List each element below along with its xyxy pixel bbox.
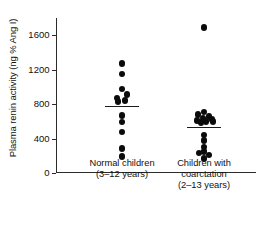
data-point [210, 118, 217, 125]
category-label-line: (2–13 years) [177, 180, 231, 191]
data-point [119, 112, 126, 119]
category-label-line: coarctation [177, 169, 231, 180]
mean-line [105, 106, 139, 107]
x-axis-category-label: Normal children(3–12 years) [89, 158, 154, 180]
y-axis-tick-label: 1200 [28, 65, 49, 75]
y-axis-tick-label: 800 [34, 99, 50, 109]
y-axis-tick-label: 0 [44, 168, 49, 178]
data-point [201, 24, 208, 31]
y-axis-tick-label: 1600 [28, 30, 49, 40]
data-point [115, 98, 122, 105]
y-axis-tick-mark [52, 173, 57, 174]
data-point [119, 119, 126, 126]
y-axis-tick-label: 400 [34, 134, 50, 144]
y-axis-tick-mark [52, 104, 57, 105]
y-axis-title: Plasma renin activity (ng % Ang I) [4, 0, 22, 178]
data-point [119, 129, 126, 136]
plot-area: 040080012001600 [56, 18, 256, 173]
data-point [119, 60, 126, 67]
data-point [198, 119, 205, 126]
y-axis-line [56, 18, 57, 173]
category-label-line: Normal children [89, 158, 154, 169]
data-point [119, 71, 126, 78]
data-point [122, 97, 129, 104]
mean-line [187, 127, 221, 128]
y-axis-tick-mark [52, 70, 57, 71]
category-label-line: (3–12 years) [89, 169, 154, 180]
chart-figure: Plasma renin activity (ng % Ang I) 04008… [0, 0, 263, 225]
y-axis-tick-mark [52, 35, 57, 36]
category-label-line: Children with [177, 158, 231, 169]
x-axis-category-label: Children withcoarctation(2–13 years) [177, 158, 231, 192]
data-point [119, 145, 126, 152]
data-point [201, 137, 208, 144]
y-axis-tick-mark [52, 139, 57, 140]
